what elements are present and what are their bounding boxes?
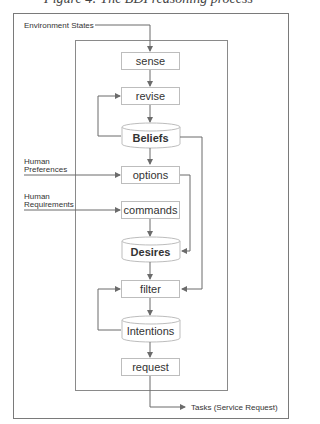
tasks-service-request-label: Tasks (Service Request) <box>191 403 278 412</box>
options-label: options <box>121 168 180 182</box>
sense-label: sense <box>121 54 180 68</box>
environment-states-arrow <box>95 25 150 51</box>
commands-label: commands <box>121 203 180 217</box>
environment-states-label: Environment States <box>24 21 94 30</box>
revise-label: revise <box>121 89 180 103</box>
beliefs-revise-loop <box>98 96 121 136</box>
request-label: request <box>121 360 180 374</box>
beliefs-label: Beliefs <box>121 131 180 145</box>
human-requirements-label-line2: Requirements <box>24 200 74 209</box>
filter-label: filter <box>121 282 180 296</box>
intentions-filter-loop <box>98 289 121 330</box>
human-preferences-label-line2: Preferences <box>24 165 67 174</box>
options-desires-line <box>180 175 190 251</box>
beliefs-filter-line <box>180 137 202 289</box>
desires-label: Desires <box>121 245 180 259</box>
intentions-label: Intentions <box>121 324 180 338</box>
tasks-output-arrow <box>150 376 185 407</box>
